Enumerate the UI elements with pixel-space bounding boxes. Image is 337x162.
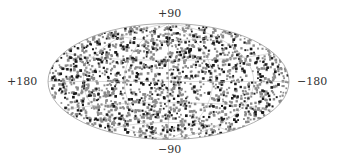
data-point <box>84 56 86 58</box>
data-point <box>198 133 200 135</box>
data-point <box>171 73 173 75</box>
data-point <box>103 119 105 121</box>
data-point <box>142 125 144 127</box>
data-point <box>188 123 190 125</box>
data-point <box>185 75 187 77</box>
data-point <box>103 84 105 86</box>
data-point <box>146 30 148 32</box>
data-point <box>238 58 240 60</box>
data-point <box>205 132 207 134</box>
data-point <box>154 114 156 116</box>
data-point <box>136 109 138 111</box>
data-point <box>232 44 234 46</box>
data-point <box>115 35 117 37</box>
data-point <box>173 104 176 107</box>
data-point <box>59 72 62 75</box>
data-point <box>282 80 285 83</box>
data-point <box>164 114 166 116</box>
data-point <box>149 95 152 98</box>
data-point <box>207 92 210 95</box>
data-point <box>128 47 130 49</box>
data-point <box>244 38 246 40</box>
data-point <box>150 87 152 89</box>
data-point <box>123 79 125 81</box>
data-point <box>224 113 227 116</box>
data-point <box>109 80 111 82</box>
data-point <box>239 60 242 63</box>
data-point <box>280 68 282 70</box>
data-point <box>277 70 279 72</box>
data-point <box>201 62 203 64</box>
data-point <box>232 75 234 77</box>
data-point <box>274 68 276 70</box>
data-point <box>140 115 142 117</box>
data-point <box>54 91 56 93</box>
data-point <box>122 66 124 68</box>
data-point <box>163 96 165 98</box>
data-point <box>154 33 156 35</box>
data-point <box>170 29 172 31</box>
data-point <box>238 81 240 83</box>
data-point <box>235 70 237 72</box>
data-point <box>173 83 175 85</box>
data-point <box>106 60 108 62</box>
data-point <box>262 61 264 63</box>
data-point <box>61 90 63 92</box>
data-point <box>226 92 228 94</box>
data-point <box>157 35 160 38</box>
data-point <box>146 56 148 58</box>
data-point <box>60 80 62 82</box>
data-point <box>68 92 70 94</box>
data-point <box>150 109 152 111</box>
data-point <box>197 61 199 63</box>
data-point <box>243 62 246 65</box>
data-point <box>104 105 106 107</box>
data-point <box>221 44 223 46</box>
data-point <box>71 101 73 103</box>
data-point <box>189 78 191 80</box>
data-point <box>154 87 156 89</box>
data-point <box>185 91 187 93</box>
data-point <box>177 64 179 66</box>
data-point <box>129 119 132 122</box>
data-point <box>224 54 226 56</box>
data-point <box>233 109 235 111</box>
data-point <box>214 70 217 73</box>
data-point <box>159 94 161 96</box>
data-point <box>191 31 193 33</box>
data-point <box>202 77 204 79</box>
data-point <box>234 88 236 90</box>
data-point <box>184 137 186 139</box>
data-point <box>190 71 192 73</box>
data-point <box>157 94 159 96</box>
data-point <box>150 97 153 100</box>
data-point <box>276 96 278 98</box>
data-point <box>265 48 267 50</box>
data-point <box>198 71 200 73</box>
data-point <box>107 76 109 78</box>
data-point <box>106 68 108 70</box>
data-point <box>221 48 223 50</box>
data-point <box>75 92 77 94</box>
data-point <box>105 119 107 121</box>
data-point <box>179 92 182 95</box>
data-point <box>229 76 231 78</box>
data-point <box>195 64 197 66</box>
data-point <box>221 68 223 70</box>
data-point <box>174 59 177 62</box>
data-point <box>156 39 158 41</box>
data-point <box>191 116 193 118</box>
data-point <box>51 76 54 79</box>
data-point <box>126 44 128 46</box>
data-point <box>143 103 146 106</box>
data-point <box>204 92 206 94</box>
data-point <box>232 67 235 70</box>
data-point <box>140 130 142 132</box>
data-point <box>71 79 73 81</box>
data-point <box>145 129 147 131</box>
data-point <box>69 50 72 53</box>
data-point <box>250 52 252 54</box>
data-point <box>222 92 225 95</box>
data-point <box>156 44 159 47</box>
data-point <box>122 106 124 108</box>
